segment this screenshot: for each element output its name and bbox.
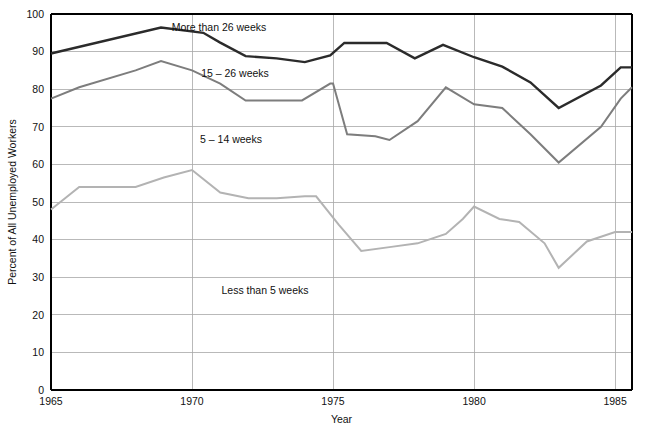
y-tick-label-30: 30: [32, 271, 44, 283]
y-tick-label-50: 50: [32, 196, 44, 208]
y-tick-label-20: 20: [32, 309, 44, 321]
x-tick-label-1980: 1980: [462, 395, 486, 407]
chart-container: 0102030405060708090100 19651970197519801…: [0, 0, 645, 429]
series-label-0: More than 26 weeks: [172, 21, 267, 33]
series-label-2: 5 – 14 weeks: [200, 133, 262, 145]
x-axis-title: Year: [331, 413, 353, 425]
series-label-3: Less than 5 weeks: [222, 284, 309, 296]
y-tick-label-10: 10: [32, 346, 44, 358]
chart-background: [0, 0, 645, 429]
x-tick-label-1970: 1970: [180, 395, 204, 407]
y-tick-label-100: 100: [26, 8, 44, 20]
y-axis-title: Percent of All Unemployed Workers: [6, 119, 18, 285]
x-tick-label-1985: 1985: [603, 395, 627, 407]
y-tick-label-80: 80: [32, 83, 44, 95]
y-tick-label-0: 0: [38, 384, 44, 396]
x-tick-label-1975: 1975: [321, 395, 345, 407]
y-tick-label-40: 40: [32, 233, 44, 245]
unemployment-duration-line-chart: 0102030405060708090100 19651970197519801…: [0, 0, 645, 429]
y-tick-label-60: 60: [32, 158, 44, 170]
y-tick-label-70: 70: [32, 121, 44, 133]
x-tick-label-1965: 1965: [39, 395, 63, 407]
series-label-1: 15 – 26 weeks: [201, 67, 269, 79]
y-tick-label-90: 90: [32, 45, 44, 57]
